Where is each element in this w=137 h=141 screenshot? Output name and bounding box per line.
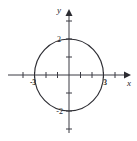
y-axis-arrowhead	[66, 9, 73, 16]
coordinate-plane: y x 2 -2 -3 3	[0, 0, 137, 141]
y-tick-label-positive-2: 2	[57, 35, 61, 44]
y-tick-label-negative-2: -2	[56, 107, 63, 116]
x-axis-label: x	[126, 78, 131, 88]
x-intercept-label-right: 3	[103, 78, 107, 87]
ellipse-graph-figure: y x 2 -2 -3 3	[0, 0, 137, 141]
x-intercept-label-left: -3	[30, 78, 36, 87]
y-axis-label: y	[56, 5, 61, 15]
